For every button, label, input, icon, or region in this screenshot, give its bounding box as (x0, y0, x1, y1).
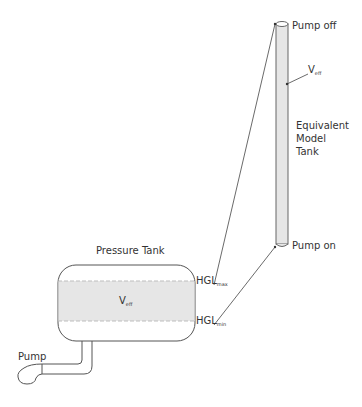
pipe (42, 341, 92, 374)
model-tank-line-3: Tank (296, 145, 349, 158)
model-veff-main: V (308, 64, 315, 75)
hgl-max-main: HGL (196, 275, 217, 286)
hgl-max-link (214, 24, 275, 285)
hgl-min-main: HGL (196, 315, 217, 326)
pump-label: Pump (18, 351, 46, 363)
equivalent-model-tank-label: Equivalent Model Tank (296, 119, 349, 158)
diagram-canvas (0, 0, 362, 407)
pump-on-label: Pump on (292, 240, 336, 252)
hgl-max-sub: max (217, 281, 228, 287)
hgl-max-label: HGLmax (196, 275, 228, 290)
pressure-tank-title: Pressure Tank (96, 245, 165, 257)
model-tank-line-1: Equivalent (296, 119, 349, 132)
model-tank (276, 22, 288, 247)
model-veff-label: Veff (308, 64, 321, 79)
tank-veff-sub: eff (126, 301, 133, 307)
hgl-min-sub: min (217, 321, 226, 327)
tank-veff-main: V (119, 295, 126, 306)
pump-off-label: Pump off (292, 20, 336, 32)
veff-pointer (287, 74, 308, 84)
model-tank-line-2: Model (296, 132, 349, 145)
hgl-min-label: HGLmin (196, 315, 226, 330)
tank-veff-label: Veff (119, 295, 132, 310)
model-veff-sub: eff (315, 70, 322, 76)
pump-icon (18, 364, 42, 384)
